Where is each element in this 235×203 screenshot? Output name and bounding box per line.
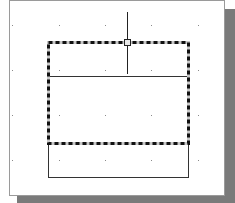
selected-rectangle[interactable] <box>49 43 189 144</box>
grid-dot <box>105 70 106 71</box>
grid-dot <box>59 70 60 71</box>
grid-dot <box>198 25 199 26</box>
grid-dots <box>12 25 199 161</box>
grid-dot <box>12 115 13 116</box>
lower-rectangle[interactable] <box>49 144 189 178</box>
grid-dot <box>151 70 152 71</box>
grid-dot <box>12 25 13 26</box>
grid-dot <box>12 160 13 161</box>
grid-dot <box>151 160 152 161</box>
grid-dot <box>151 115 152 116</box>
grid-dot <box>59 160 60 161</box>
grid-dot <box>198 160 199 161</box>
grid-dot <box>198 70 199 71</box>
grid-dot <box>105 115 106 116</box>
grid-dot <box>105 25 106 26</box>
grid-dot <box>12 70 13 71</box>
grid-dot <box>151 25 152 26</box>
selection-grip-handle[interactable] <box>125 40 131 46</box>
grid-dot <box>105 160 106 161</box>
drawing-layer[interactable] <box>0 0 235 203</box>
grid-dot <box>59 25 60 26</box>
grid-dot <box>198 115 199 116</box>
grid-dot <box>59 115 60 116</box>
